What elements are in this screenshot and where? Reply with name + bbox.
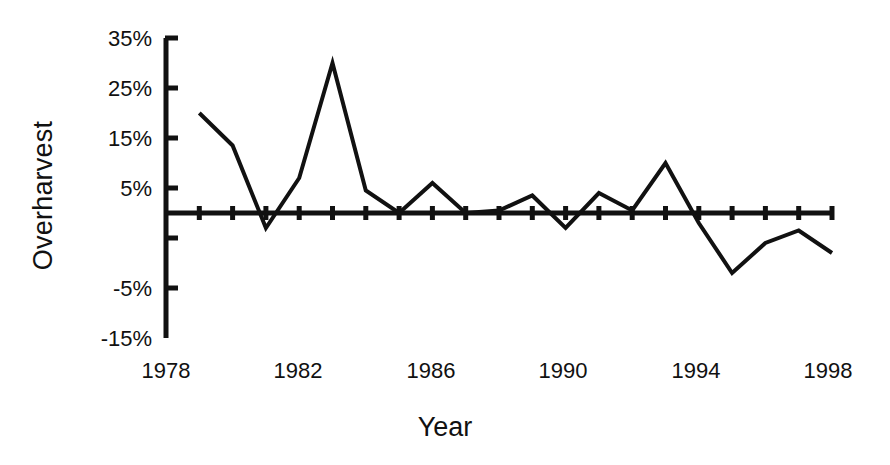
chart-figure: Overharvest 35% 25% 15% 5% -5% -15% 1978… bbox=[0, 0, 890, 465]
plot-area bbox=[0, 0, 890, 465]
data-series-line bbox=[199, 63, 832, 273]
axes-group bbox=[165, 38, 832, 338]
